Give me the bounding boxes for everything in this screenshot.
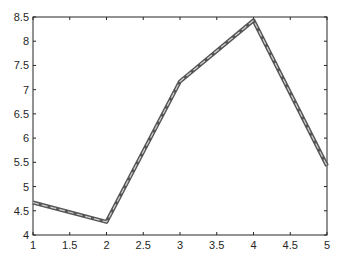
y-tick-label: 7 <box>23 84 29 96</box>
x-tick-label: 3 <box>177 239 183 251</box>
y-tick-label: 6.5 <box>14 108 29 120</box>
line-chart: 11.522.533.544.5544.555.566.577.588.5 <box>0 0 343 259</box>
y-tick-label: 6 <box>23 132 29 144</box>
x-tick-label: 4.5 <box>283 239 298 251</box>
x-tick-label: 2.5 <box>136 239 151 251</box>
y-tick-label: 5.5 <box>14 156 29 168</box>
y-tick-label: 5 <box>23 181 29 193</box>
x-tick-label: 3.5 <box>209 239 224 251</box>
plot-area <box>33 17 327 235</box>
y-tick-label: 7.5 <box>14 59 29 71</box>
x-tick-label: 5 <box>324 239 330 251</box>
y-tick-label: 8 <box>23 35 29 47</box>
x-tick-label: 2 <box>103 239 109 251</box>
x-tick-label: 4 <box>250 239 256 251</box>
y-tick-label: 4.5 <box>14 205 29 217</box>
x-tick-label: 1 <box>30 239 36 251</box>
y-tick-label: 8.5 <box>14 11 29 23</box>
x-tick-label: 1.5 <box>62 239 77 251</box>
y-tick-label: 4 <box>23 229 29 241</box>
